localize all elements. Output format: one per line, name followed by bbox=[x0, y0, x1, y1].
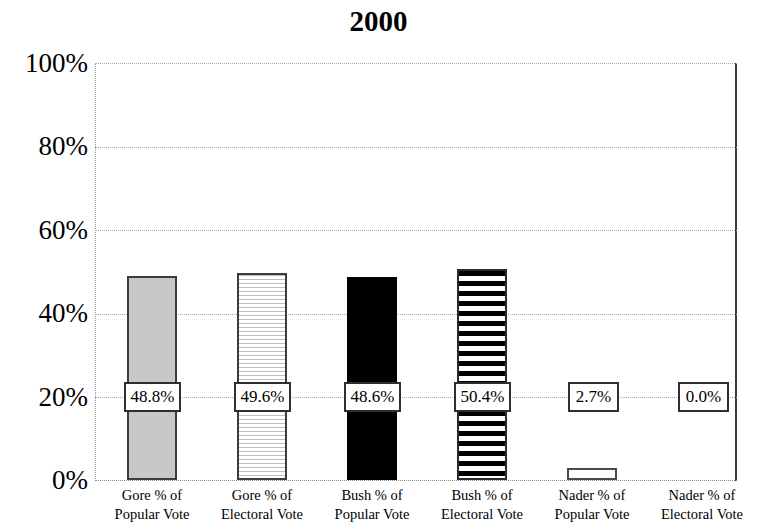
x-label-line2: Electoral Vote bbox=[647, 505, 757, 524]
x-label-bush-popular-vote: Bush % of Popular Vote bbox=[317, 486, 427, 524]
bar-bush-popular-vote bbox=[347, 277, 397, 480]
x-label-gore-electoral-vote: Gore % of Electoral Vote bbox=[207, 486, 317, 524]
gridline-20 bbox=[95, 397, 737, 398]
plot-area: 48.8% 49.6% 48.6% 50.4% 2.7% 0.0% bbox=[95, 63, 737, 481]
x-label-line1: Gore % of bbox=[122, 487, 182, 503]
gridline-40 bbox=[95, 314, 737, 315]
x-label-line1: Bush % of bbox=[341, 487, 402, 503]
data-label-bush-popular-vote: 48.6% bbox=[344, 382, 401, 412]
y-axis-line bbox=[95, 63, 96, 481]
x-label-line2: Popular Vote bbox=[97, 505, 207, 524]
x-label-line2: Electoral Vote bbox=[427, 505, 537, 524]
x-label-line2: Popular Vote bbox=[317, 505, 427, 524]
data-label-nader-electoral-vote: 0.0% bbox=[678, 382, 729, 412]
bar-gore-electoral-vote bbox=[237, 273, 287, 480]
x-axis-line bbox=[95, 480, 737, 481]
bar-chart: 2000 100% 80% 60% 40% 20% 0% 48.8% 49.6%… bbox=[0, 0, 757, 529]
y-tick-label-80: 80% bbox=[2, 133, 88, 160]
data-label-nader-popular-vote: 2.7% bbox=[568, 382, 619, 412]
x-label-line1: Bush % of bbox=[451, 487, 512, 503]
gridline-80 bbox=[95, 147, 737, 148]
y-axis: 100% 80% 60% 40% 20% 0% bbox=[0, 63, 88, 481]
plot-right-border bbox=[735, 63, 737, 481]
bar-bush-electoral-vote bbox=[457, 269, 507, 480]
x-label-nader-electoral-vote: Nader % of Electoral Vote bbox=[647, 486, 757, 524]
data-label-gore-popular-vote: 48.8% bbox=[124, 382, 181, 412]
x-label-line2: Electoral Vote bbox=[207, 505, 317, 524]
x-label-nader-popular-vote: Nader % of Popular Vote bbox=[537, 486, 647, 524]
data-label-bush-electoral-vote: 50.4% bbox=[454, 382, 511, 412]
bar-nader-popular-vote bbox=[567, 468, 617, 480]
chart-title: 2000 bbox=[0, 4, 757, 38]
x-axis-labels: Gore % of Popular Vote Gore % of Elector… bbox=[95, 486, 737, 529]
x-label-bush-electoral-vote: Bush % of Electoral Vote bbox=[427, 486, 537, 524]
data-label-gore-electoral-vote: 49.6% bbox=[234, 382, 291, 412]
x-label-line2: Popular Vote bbox=[537, 505, 647, 524]
bar-gore-popular-vote bbox=[127, 276, 177, 480]
y-tick-label-100: 100% bbox=[2, 50, 88, 77]
y-tick-label-0: 0% bbox=[2, 467, 88, 494]
gridline-100 bbox=[95, 63, 737, 64]
gridline-60 bbox=[95, 230, 737, 231]
x-label-line1: Nader % of bbox=[669, 487, 736, 503]
y-tick-label-20: 20% bbox=[2, 384, 88, 411]
x-label-gore-popular-vote: Gore % of Popular Vote bbox=[97, 486, 207, 524]
x-label-line1: Nader % of bbox=[559, 487, 626, 503]
x-label-line1: Gore % of bbox=[232, 487, 292, 503]
y-tick-label-60: 60% bbox=[2, 217, 88, 244]
y-tick-label-40: 40% bbox=[2, 300, 88, 327]
